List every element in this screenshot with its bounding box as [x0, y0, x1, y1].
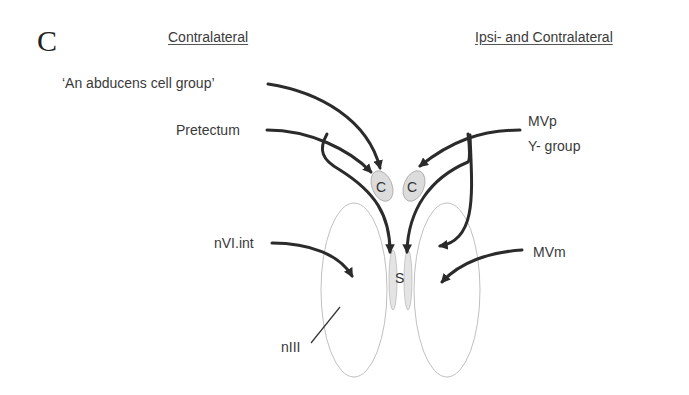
label-mvp: MVp	[528, 114, 557, 128]
nvi-to-niii-arrow	[272, 243, 352, 276]
label-niii: nIII	[281, 340, 300, 354]
header-ipsi-contralateral: Ipsi- and Contralateral	[475, 30, 613, 44]
c-left-label: C	[376, 179, 386, 195]
label-abducens-cell-group: ‘An abducens cell group’	[62, 76, 215, 90]
header-contralateral: Contralateral	[168, 30, 248, 44]
niii-pointer-line	[311, 307, 340, 343]
label-pretectum: Pretectum	[176, 123, 240, 137]
label-y-group: Y- group	[528, 139, 580, 153]
connectivity-diagram: C C S	[0, 0, 689, 395]
s-right-subnucleus	[404, 250, 412, 310]
s-label: S	[395, 270, 404, 286]
niii-right-ellipse	[414, 203, 480, 377]
mvp-to-right-nucleus-arrow	[440, 135, 472, 246]
label-mvm: MVm	[533, 245, 566, 259]
diagram-canvas: C C S C Contralateral Ipsi	[0, 0, 689, 395]
label-nvi-int: nVI.int	[214, 236, 254, 250]
pretectum-to-c-arrow	[267, 130, 371, 172]
panel-label: C	[37, 26, 57, 56]
niii-left-ellipse	[321, 203, 387, 377]
mvm-to-niii-arrow	[442, 250, 522, 282]
c-right-label: C	[407, 179, 417, 195]
